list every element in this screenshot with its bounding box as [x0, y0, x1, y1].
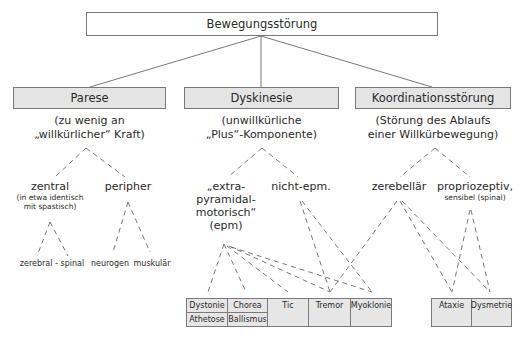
node-propriozeptiv: propriozeptiv, sensibel (spinal) — [430, 180, 520, 202]
node-epm: „extra- pyramidal- motorisch“ (epm) — [195, 180, 257, 232]
node-label: nicht-epm. — [268, 180, 334, 193]
description-line: einer Willkürbewegung) — [355, 128, 511, 142]
cell-label: Tremor — [316, 301, 344, 310]
cell-myoklonie: Myoklonie — [350, 298, 392, 327]
cell-dystonie: Dystonie — [186, 298, 228, 313]
description-line: (Störung des Ablaufs — [355, 114, 511, 128]
node-label: propriozeptiv, — [430, 180, 520, 193]
root-label: Bewegungsstörung — [207, 17, 318, 31]
description-dyskinesie: (unwillkürliche „Plus“-Komponente) — [184, 114, 339, 142]
cell-ataxie: Ataxie — [431, 298, 472, 327]
node-zentral: zentral (in etwa identisch mit spastisch… — [10, 180, 90, 211]
cell-label: Chorea — [233, 301, 262, 310]
node-label-line: pyramidal- — [195, 193, 257, 206]
node-label: zerebellär — [366, 180, 432, 193]
description-line: „Plus“-Komponente) — [184, 128, 339, 142]
category-box-koordinationsstoerung: Koordinationsstörung — [355, 87, 511, 109]
node-note: (in etwa identisch — [10, 193, 90, 202]
cell-dysmetrie: Dysmetrie — [471, 298, 512, 327]
node-label-line: motorisch“ — [195, 206, 257, 219]
node-nicht-epm: nicht-epm. — [268, 180, 334, 193]
description-koordination: (Störung des Ablaufs einer Willkürbewegu… — [355, 114, 511, 142]
node-note: mit spastisch) — [10, 202, 90, 211]
cell-tic: Tic — [267, 298, 309, 327]
leaf-neurogen: neurogen — [90, 259, 130, 268]
cell-ballismus: Ballismus — [227, 312, 268, 327]
cell-tremor: Tremor — [308, 298, 351, 327]
description-line: „willkürlicher“ Kraft) — [13, 128, 166, 142]
node-note: sensibel (spinal) — [430, 193, 520, 202]
node-label-line: „extra- — [195, 180, 257, 193]
leaf-zerebral-spinal: zerebral - spinal — [12, 259, 92, 268]
category-label-dyskinesie: Dyskinesie — [230, 91, 292, 105]
description-parese: (zu wenig an „willkürlicher“ Kraft) — [13, 114, 166, 142]
cell-label: Dystonie — [189, 301, 224, 310]
category-label-parese: Parese — [70, 91, 108, 105]
root-box-bewegungsstoerung: Bewegungsstörung — [86, 12, 438, 36]
node-label-line: (epm) — [195, 219, 257, 232]
category-box-dyskinesie: Dyskinesie — [184, 87, 339, 109]
cell-label: Tic — [282, 301, 293, 310]
cell-label: Ataxie — [439, 301, 464, 310]
description-line: (unwillkürliche — [184, 114, 339, 128]
cell-label: Dysmetrie — [471, 301, 512, 310]
category-box-parese: Parese — [13, 87, 166, 109]
cell-label: Athetose — [189, 315, 225, 324]
cell-label: Ballismus — [228, 315, 266, 324]
cell-athetose: Athetose — [186, 312, 228, 327]
node-peripher: peripher — [98, 180, 158, 193]
cell-label: Myoklonie — [351, 301, 392, 310]
node-label: peripher — [98, 180, 158, 193]
cell-chorea: Chorea — [227, 298, 268, 313]
connector-lines — [0, 0, 528, 341]
leaf-muskulaer: muskulär — [132, 259, 172, 268]
node-label: zentral — [10, 180, 90, 193]
description-line: (zu wenig an — [13, 114, 166, 128]
node-zerebellaer: zerebellär — [366, 180, 432, 193]
category-label-koordination: Koordinationsstörung — [372, 91, 495, 105]
